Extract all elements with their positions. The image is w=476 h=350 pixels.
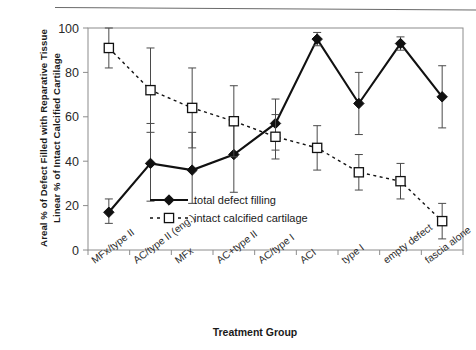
x-axis-category-label: AC/type I	[256, 232, 296, 266]
legend-marker-diamond	[164, 195, 174, 205]
x-axis-category-label: MFx	[173, 245, 195, 266]
data-point-square	[229, 117, 238, 126]
legend-label-1: total defect filling	[194, 194, 276, 206]
series-2	[104, 28, 447, 239]
x-axis-category-label: type I	[339, 242, 366, 266]
y-axis-tick-label: 60	[65, 110, 79, 124]
data-point-diamond	[187, 165, 197, 175]
plot-area: 020406080100MFx/type IIAC/type II (eng.)…	[0, 0, 476, 350]
data-point-diamond	[312, 34, 322, 44]
data-point-square	[438, 217, 447, 226]
y-axis-tick-label: 80	[65, 66, 79, 80]
data-point-square	[396, 177, 405, 186]
data-point-square	[313, 143, 322, 152]
data-point-square	[146, 86, 155, 95]
data-point-square	[104, 43, 113, 52]
x-axis-category-label: ACI	[298, 247, 318, 266]
data-point-square	[354, 168, 363, 177]
y-axis-tick-label: 20	[65, 199, 79, 213]
x-axis-category-label: AC+type II	[214, 228, 259, 266]
y-axis-tick-label: 40	[65, 155, 79, 169]
legend-marker-square	[164, 213, 173, 222]
y-axis-tick-label: 100	[58, 22, 79, 36]
data-point-square	[271, 132, 280, 141]
legend-label-2: intact calcified cartilage	[194, 212, 308, 224]
y-axis-tick-label: 0	[72, 244, 79, 258]
data-point-square	[188, 103, 197, 112]
chart-figure: Areal % of Defect Filled with Reparative…	[0, 0, 476, 350]
x-axis-category-label: MFx/type II	[89, 226, 136, 265]
legend: total defect fillingintact calcified car…	[150, 194, 308, 224]
